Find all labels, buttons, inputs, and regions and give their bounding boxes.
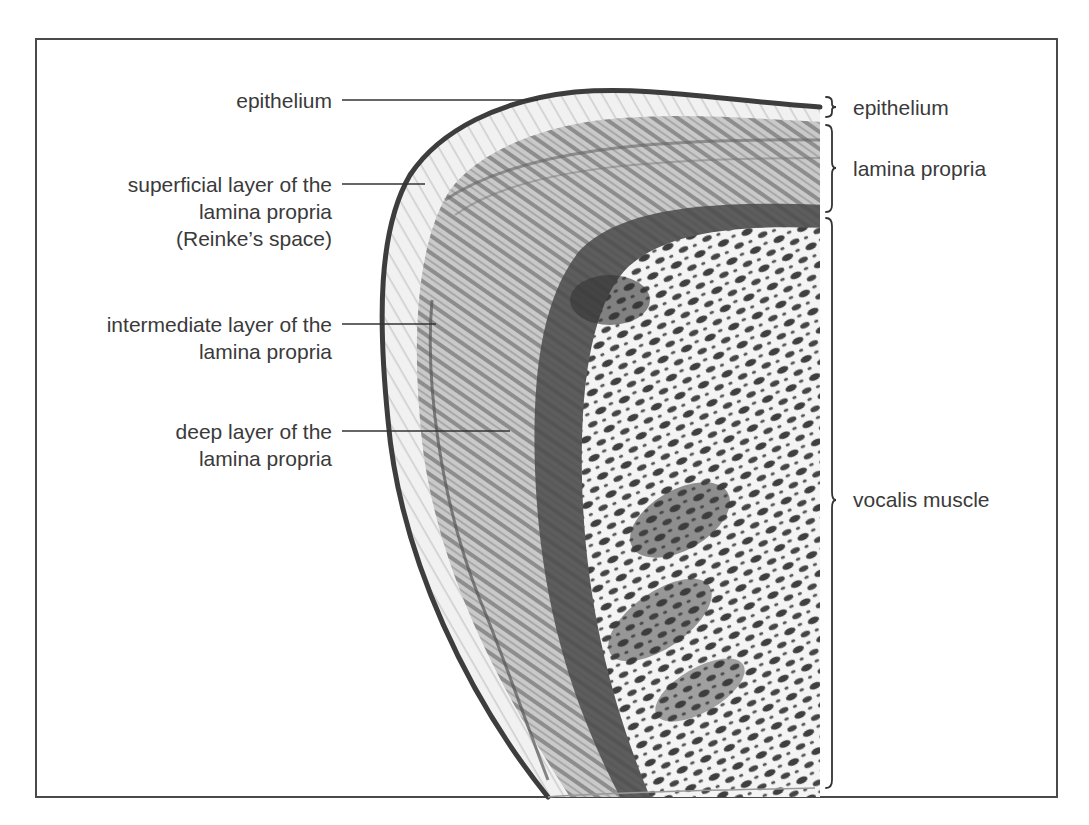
brace-vocalis-muscle [826,218,836,788]
tissue-section [382,91,825,797]
label-line: lamina propria [128,198,332,225]
label-line: (Reinke’s space) [128,225,332,252]
label-vocalis-muscle: vocalis muscle [853,486,990,513]
label-superficial-layer: superficial layer of the lamina propria … [128,171,332,252]
label-deep-layer: deep layer of the lamina propria [176,418,332,472]
brace-epithelium [826,97,836,117]
vocal-fold-illustration [0,0,1089,825]
label-line: intermediate layer of the [107,311,332,338]
label-line: deep layer of the [176,418,332,445]
label-line: superficial layer of the [128,171,332,198]
label-line: lamina propria [176,445,332,472]
brace-lamina-propria [826,125,836,212]
label-epithelium-left: epithelium [236,87,332,114]
label-line: lamina propria [107,338,332,365]
label-lamina-propria: lamina propria [853,155,986,182]
right-braces [826,97,836,788]
label-intermediate-layer: intermediate layer of the lamina propria [107,311,332,365]
label-epithelium-right: epithelium [853,94,949,121]
label-line: epithelium [236,87,332,114]
